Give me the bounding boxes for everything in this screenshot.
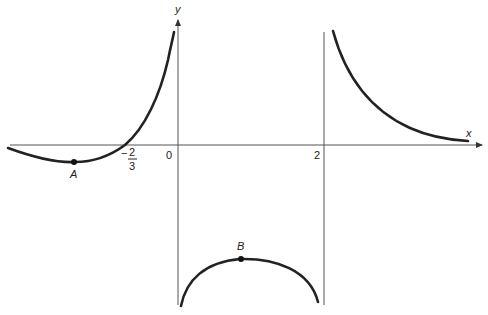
intercept-denominator: 3: [129, 160, 135, 172]
graph-canvas: x y 0 2 − 2 3 A B: [0, 0, 488, 315]
curve-middle-branch: [181, 259, 318, 306]
intercept-numerator: 2: [129, 146, 135, 158]
origin-label: 0: [166, 149, 172, 161]
intercept-sign: −: [121, 147, 127, 159]
curve-left-branch: [8, 32, 174, 162]
point-b-label: B: [237, 240, 244, 252]
asymptote-2-label: 2: [314, 149, 320, 161]
point-b: [238, 256, 244, 262]
x-axis-label: x: [465, 127, 472, 139]
curve-right-branch: [333, 31, 468, 141]
point-a-label: A: [69, 168, 77, 180]
point-a: [71, 159, 77, 165]
y-axis-label: y: [174, 3, 182, 15]
